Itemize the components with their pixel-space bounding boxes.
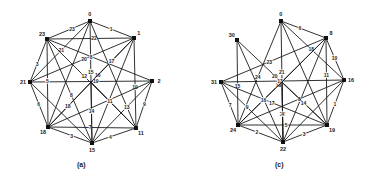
- node-label: 16: [348, 77, 354, 83]
- edge-label: 20: [81, 56, 87, 62]
- node-label: 11: [138, 130, 144, 136]
- node-label: 0: [279, 11, 282, 17]
- graph-node: [132, 36, 136, 40]
- edge-label: 23: [69, 26, 75, 32]
- graph-node: [90, 141, 94, 145]
- edge-label: 2: [256, 129, 259, 135]
- edge-label: 8: [90, 54, 93, 60]
- node-label: 22: [280, 146, 286, 152]
- caption-a: (a): [77, 161, 86, 168]
- node-label: 24: [230, 127, 237, 133]
- edge-label: 3: [303, 131, 306, 137]
- node-label: 30: [229, 32, 235, 38]
- graph-node: [281, 140, 285, 144]
- graph-node: [45, 37, 49, 41]
- graph-node: [219, 80, 223, 84]
- graph-c: 6182421152023111019137917185232216144081…: [211, 11, 354, 152]
- graph-node: [28, 80, 32, 84]
- graph-node: [88, 19, 92, 23]
- edge-label: 10: [332, 55, 338, 61]
- node-label: 21: [20, 79, 26, 85]
- graph-node: [235, 38, 239, 42]
- node-label: 18: [40, 129, 46, 135]
- edge-label: 15: [88, 69, 94, 75]
- edge-label: 4: [281, 111, 284, 117]
- edge-label: 24: [255, 74, 261, 80]
- node-label: 1: [137, 30, 140, 36]
- edge-label: 21: [279, 69, 285, 75]
- edge-label: 17: [269, 100, 275, 106]
- graph-node: [150, 79, 154, 83]
- graph-node: [279, 19, 283, 23]
- graph-node: [324, 36, 328, 40]
- node-label: 15: [89, 147, 95, 153]
- graph-node: [236, 123, 240, 127]
- edge-label: 14: [89, 108, 95, 114]
- edge-label: 3: [70, 133, 73, 139]
- node-label: 23: [39, 31, 45, 37]
- node-label: 0: [88, 11, 91, 17]
- edge-label: 3: [36, 61, 39, 67]
- node-label: 31: [211, 79, 217, 85]
- edge-label: 4: [109, 134, 112, 140]
- edge-label: 22: [91, 35, 97, 41]
- node-label: 8: [329, 30, 332, 36]
- edge-label: 16: [261, 97, 267, 103]
- graph-edge: [282, 38, 326, 82]
- edge-label: 1: [333, 101, 336, 107]
- node-label: 2: [157, 78, 160, 84]
- edge-label: 9: [246, 104, 249, 110]
- edge-label: 23: [267, 59, 273, 65]
- edge-label: 5: [285, 122, 288, 128]
- edge-label: 21: [58, 47, 64, 53]
- edge-label: 8: [70, 92, 73, 98]
- edge-label: 12: [82, 73, 88, 79]
- graph-edge: [92, 128, 136, 143]
- graph-node: [342, 78, 346, 82]
- edge-label: 13: [124, 104, 130, 110]
- caption-c: (c): [275, 161, 284, 168]
- edge-label: 11: [324, 72, 330, 78]
- graph-edge: [326, 38, 327, 125]
- edge-label: 18: [65, 103, 71, 109]
- edge-label: 6: [299, 25, 302, 31]
- graph-a: 2312215212010161936858129137341718111401…: [20, 11, 161, 153]
- edge-label: 7: [229, 102, 232, 108]
- node-label: 19: [329, 127, 335, 133]
- edge-label: 14: [301, 100, 307, 106]
- edge-label: 6: [37, 101, 40, 107]
- edge-label: 11: [107, 98, 113, 104]
- edge-label: 1: [110, 26, 113, 32]
- edge-label: 9: [143, 101, 146, 107]
- edge-label: 17: [109, 58, 115, 64]
- edge-label: 5: [46, 78, 49, 84]
- edge-label: 18: [308, 46, 314, 52]
- graph-node: [46, 125, 50, 129]
- graph-edge: [238, 82, 282, 125]
- graph-figure: 2312215212010161936858129137341718111401…: [0, 0, 373, 183]
